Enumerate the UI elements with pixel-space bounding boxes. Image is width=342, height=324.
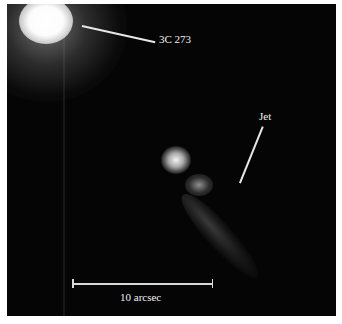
quasar-label: 3C 273	[159, 33, 191, 45]
scale-tick-right	[212, 279, 214, 288]
jet-tail	[173, 186, 266, 285]
scale-tick-left	[72, 279, 74, 288]
jet-knot-bright	[161, 146, 191, 174]
scale-label: 10 arcsec	[120, 291, 161, 303]
scale-bar	[72, 283, 213, 285]
astronomical-image: 3C 273 Jet 10 arcsec	[7, 4, 336, 316]
jet-knot-secondary	[185, 174, 213, 196]
jet-label: Jet	[259, 110, 271, 122]
jet-pointer-line	[239, 126, 263, 183]
